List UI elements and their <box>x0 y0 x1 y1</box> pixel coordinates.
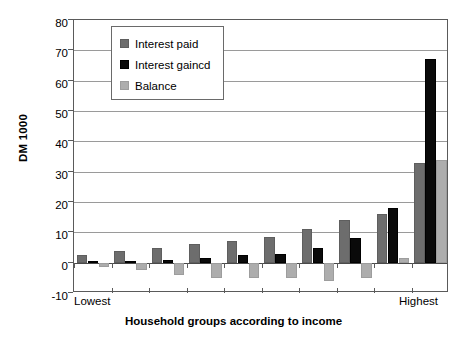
light-gray-swatch-icon <box>120 81 129 90</box>
y-tick-mark--10 <box>68 292 73 293</box>
bar-interest-gaincd <box>125 261 136 263</box>
x-axis-bottom-tick <box>149 288 150 293</box>
x-axis-title: Household groups according to income <box>0 315 467 327</box>
x-tick-mark <box>149 263 150 268</box>
bar-interest-gaincd <box>425 59 436 262</box>
y-tick-label-20: 20 <box>30 205 68 206</box>
bar-interest-paid <box>302 229 313 262</box>
bar-interest-gaincd <box>238 255 249 263</box>
bar-group <box>74 20 112 291</box>
bar-interest-paid <box>264 237 275 263</box>
x-axis-bottom-tick <box>262 288 263 293</box>
bar-interest-paid <box>189 244 200 262</box>
dark-gray-swatch-icon <box>120 39 129 48</box>
bar-interest-paid <box>152 248 163 263</box>
x-tick-mark <box>112 263 113 268</box>
x-tick-mark <box>299 263 300 268</box>
bar-interest-gaincd <box>313 248 324 263</box>
x-axis-bottom-tick <box>299 288 300 293</box>
x-tick-mark <box>374 263 375 268</box>
x-tick-mark <box>262 263 263 268</box>
y-tick-label-50: 50 <box>30 114 68 115</box>
bar-interest-gaincd <box>200 258 211 263</box>
bar-interest-gaincd <box>163 260 174 263</box>
bar-group <box>262 20 300 291</box>
bar-balance <box>324 263 335 281</box>
legend-item-label: Interest gaincd <box>135 59 210 71</box>
x-tick-mark <box>337 263 338 268</box>
bar-interest-gaincd <box>88 261 99 263</box>
y-tick-label-40: 40 <box>30 144 68 145</box>
y-tick-label-10: 10 <box>30 235 68 236</box>
legend-item: Interest paid <box>120 33 223 54</box>
bar-group <box>412 20 450 291</box>
y-tick-label-30: 30 <box>30 175 68 176</box>
bar-balance <box>136 263 147 271</box>
y-tick-label--10: -10 <box>30 296 68 297</box>
bar-interest-paid <box>377 214 388 263</box>
x-axis-bottom-tick <box>112 288 113 293</box>
y-tick-label-0: 0 <box>30 266 68 267</box>
x-axis-left-label: Lowest <box>74 295 110 307</box>
bar-balance <box>174 263 185 275</box>
bar-group <box>299 20 337 291</box>
bar-interest-gaincd <box>388 208 399 263</box>
bar-balance <box>436 160 447 263</box>
bar-balance <box>399 258 410 263</box>
x-axis-right-label: Highest <box>399 295 438 307</box>
chart-legend: Interest paidInterest gaincdBalance <box>111 26 224 100</box>
x-tick-mark <box>412 263 413 268</box>
bar-chart-figure: DM 1000 80706050403020100-10 Interest pa… <box>0 0 467 337</box>
x-axis-bottom-tick <box>337 288 338 293</box>
bar-interest-gaincd <box>275 254 286 263</box>
bar-interest-paid <box>114 251 125 263</box>
x-axis-bottom-tick <box>374 288 375 293</box>
legend-item: Balance <box>120 75 223 96</box>
legend-item-label: Interest paid <box>135 38 198 50</box>
bar-balance <box>361 263 372 278</box>
x-tick-mark <box>224 263 225 268</box>
bar-balance <box>286 263 297 278</box>
x-tick-mark <box>187 263 188 268</box>
y-tick-label-80: 80 <box>30 23 68 24</box>
x-axis-bottom-tick <box>187 288 188 293</box>
bar-interest-gaincd <box>350 238 361 262</box>
bar-interest-paid <box>77 255 88 263</box>
y-tick-label-60: 60 <box>30 84 68 85</box>
x-axis-bottom-tick <box>224 288 225 293</box>
bar-group <box>224 20 262 291</box>
bar-interest-paid <box>414 163 425 263</box>
black-swatch-icon <box>120 60 129 69</box>
bar-balance <box>211 263 222 278</box>
bar-interest-paid <box>339 220 350 262</box>
legend-item: Interest gaincd <box>120 54 223 75</box>
x-tick-mark <box>74 263 75 268</box>
bar-group <box>374 20 412 291</box>
y-tick-label-70: 70 <box>30 53 68 54</box>
bar-balance <box>249 263 260 278</box>
bar-balance <box>99 263 110 268</box>
bar-group <box>337 20 375 291</box>
bar-interest-paid <box>227 241 238 262</box>
x-axis-bottom-tick <box>412 288 413 293</box>
legend-item-label: Balance <box>135 80 177 92</box>
